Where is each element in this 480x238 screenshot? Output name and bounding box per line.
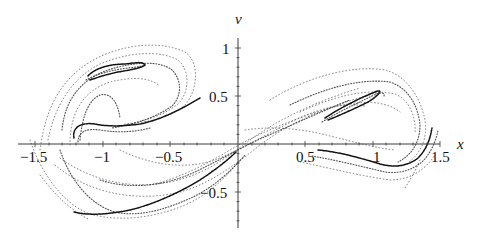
- scatter-points: [30, 45, 438, 220]
- y-axis-label: v: [235, 11, 242, 27]
- x-tick-label: −1: [94, 149, 110, 165]
- x-tick-label: 1.5: [431, 149, 450, 165]
- x-tick-label: −0.5: [155, 149, 182, 165]
- x-tick-label: 0.5: [296, 149, 315, 165]
- x-axis: −1.5 −1 −0.5 0.5 1 1.5 x: [18, 136, 464, 165]
- y-axis: 1 0.5 −0.5 v: [200, 11, 242, 228]
- attractor-scatter-plot: −1.5 −1 −0.5 0.5 1 1.5 x 1 0.5 −0.5 v: [0, 0, 480, 238]
- x-axis-label: x: [456, 136, 464, 152]
- x-tick-label: 1: [373, 149, 381, 165]
- x-tick-label: −1.5: [20, 149, 47, 165]
- y-tick-label: −0.5: [200, 185, 227, 201]
- y-tick-label: 0.5: [209, 89, 228, 105]
- y-tick-label: 1: [222, 41, 230, 57]
